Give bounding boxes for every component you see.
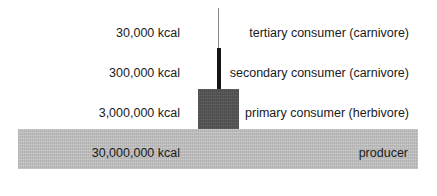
secondary-energy-label: 300,000 kcal [109, 66, 180, 80]
primary-energy-label: 3,000,000 kcal [99, 106, 180, 120]
primary-consumer-bar [198, 89, 239, 129]
primary-level-label: primary consumer (herbivore) [245, 106, 409, 120]
secondary-consumer-bar [217, 48, 221, 89]
producer-energy-label: 30,000,000 kcal [92, 146, 180, 160]
tertiary-level-label: tertiary consumer (carnivore) [249, 26, 409, 40]
energy-pyramid-diagram: 30,000 kcal 300,000 kcal 3,000,000 kcal … [0, 0, 437, 196]
tertiary-energy-label: 30,000 kcal [116, 26, 180, 40]
producer-level-label: producer [359, 146, 408, 160]
secondary-level-label: secondary consumer (carnivore) [230, 66, 409, 80]
tertiary-consumer-bar [218, 8, 219, 48]
